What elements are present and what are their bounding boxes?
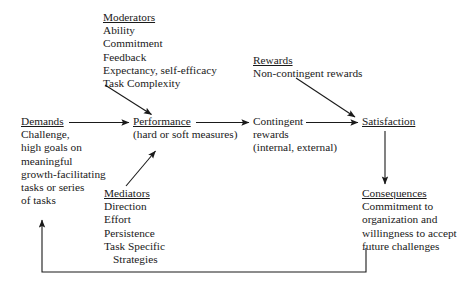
node-moderators-line-4: Task Complexity (103, 77, 217, 90)
node-rewards: Rewards Non-contingent rewards (253, 54, 362, 80)
node-mediators-line-1: Effort (104, 213, 165, 226)
node-contingent-rewards-line-1: rewards (253, 128, 337, 141)
node-performance: Performance (hard or soft measures) (133, 115, 237, 141)
edge-rewards-to-satisfaction (296, 78, 355, 117)
node-mediators-header: Mediators (104, 187, 165, 200)
node-contingent-rewards: Contingent rewards (internal, external) (253, 115, 337, 155)
node-moderators-line-2: Feedback (103, 51, 217, 64)
node-demands-header: Demands (21, 115, 106, 128)
node-demands-line-2: meaningful (21, 155, 106, 168)
node-satisfaction-header: Satisfaction (362, 115, 415, 128)
node-consequences-line-1: organization and (362, 213, 457, 226)
edge-mediators-to-performance (126, 151, 156, 186)
node-contingent-rewards-line-2: (internal, external) (253, 141, 337, 154)
node-rewards-line-0: Non-contingent rewards (253, 67, 362, 80)
node-moderators: Moderators Ability Commitment Feedback E… (103, 11, 217, 90)
edge-consequences-to-demands-feedback-loop (42, 220, 366, 272)
node-consequences-line-2: willingness to accept (362, 227, 457, 240)
node-mediators-line-3: Task Specific (104, 240, 165, 253)
node-contingent-rewards-line-0: Contingent (253, 115, 337, 128)
node-demands-line-4: tasks or series (21, 181, 106, 194)
node-performance-line-0: (hard or soft measures) (133, 128, 237, 141)
diagram-canvas: Moderators Ability Commitment Feedback E… (0, 0, 470, 288)
node-mediators: Mediators Direction Effort Persistence T… (104, 187, 165, 266)
node-consequences: Consequences Commitment to organization … (362, 187, 457, 253)
node-demands: Demands Challenge, high goals on meaning… (21, 115, 106, 207)
node-mediators-line-4: Strategies (104, 253, 165, 266)
node-moderators-line-3: Expectancy, self-efficacy (103, 64, 217, 77)
node-consequences-line-3: future challenges (362, 240, 457, 253)
node-mediators-line-2: Persistence (104, 227, 165, 240)
node-moderators-line-1: Commitment (103, 37, 217, 50)
node-demands-line-1: high goals on (21, 141, 106, 154)
node-demands-line-5: of tasks (21, 194, 106, 207)
node-mediators-line-0: Direction (104, 200, 165, 213)
node-performance-header: Performance (133, 115, 237, 128)
node-rewards-header: Rewards (253, 54, 362, 67)
node-moderators-line-0: Ability (103, 24, 217, 37)
node-consequences-header: Consequences (362, 187, 457, 200)
node-satisfaction: Satisfaction (362, 115, 415, 128)
node-moderators-header: Moderators (103, 11, 217, 24)
node-demands-line-3: growth-facilitating (21, 168, 106, 181)
node-demands-line-0: Challenge, (21, 128, 106, 141)
node-consequences-line-0: Commitment to (362, 200, 457, 213)
